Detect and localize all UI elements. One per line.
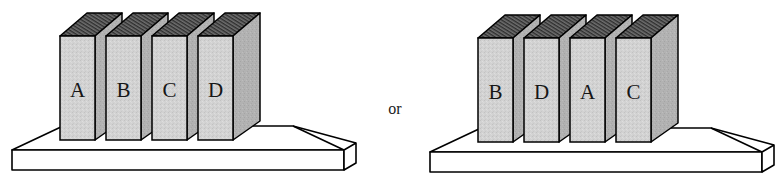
book-3-label: A	[580, 80, 596, 104]
platform-front-face	[12, 150, 344, 170]
book-3-label: C	[162, 78, 176, 102]
conjunction-or: or	[378, 100, 412, 118]
book-4[interactable]: C	[616, 15, 678, 142]
book-4-side	[233, 13, 260, 140]
book-4-label: C	[626, 80, 640, 104]
shelf-left-drawing: A B C D	[0, 0, 360, 184]
book-1-label: A	[70, 78, 86, 102]
book-1-label: B	[488, 80, 502, 104]
book-4[interactable]: D	[198, 13, 260, 140]
book-arrangement-figure: A B C D	[0, 0, 777, 184]
shelf-arrangement-right: B D A C	[420, 0, 777, 184]
book-2-label: D	[534, 80, 549, 104]
platform-front-face	[430, 152, 762, 172]
book-4-side	[651, 15, 678, 142]
shelf-right-drawing: B D A C	[420, 0, 777, 184]
shelf-arrangement-left: A B C D	[0, 0, 360, 184]
platform-right-face	[344, 143, 356, 170]
book-2-label: B	[116, 78, 130, 102]
platform-right-face	[762, 145, 774, 172]
book-4-label: D	[208, 78, 223, 102]
